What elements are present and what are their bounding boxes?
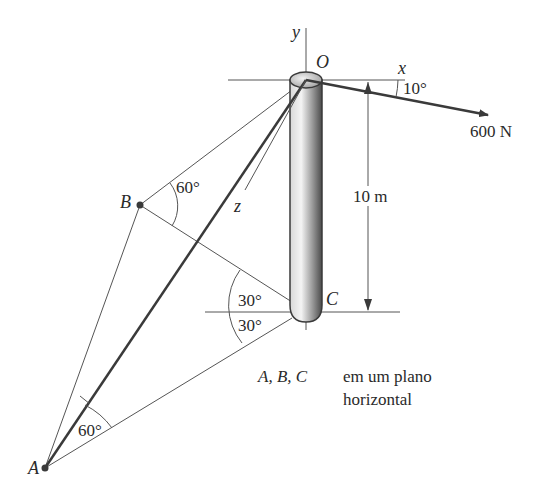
note-points: A, B, C — [257, 367, 308, 386]
tick-mark-A — [80, 396, 90, 404]
note-line-1: em um plano — [343, 367, 432, 386]
label-force-angle: 10° — [403, 79, 427, 98]
label-x-axis: x — [397, 58, 406, 78]
force-arrow — [306, 80, 488, 115]
label-angle-C-lower: 30° — [238, 316, 262, 335]
statics-diagram: y O x 10° 600 N 10 m z B 60° 30° 30° C A… — [0, 0, 549, 499]
note-line-2: horizontal — [343, 390, 412, 409]
point-B — [137, 202, 144, 209]
label-angle-C-upper: 30° — [238, 291, 262, 310]
label-A: A — [27, 458, 40, 478]
label-O: O — [316, 52, 329, 72]
label-B: B — [120, 192, 131, 212]
dimension-arrow-down — [364, 299, 372, 311]
pole — [290, 80, 322, 322]
label-height: 10 m — [353, 187, 387, 206]
label-C: C — [326, 289, 339, 309]
label-y-axis: y — [290, 22, 300, 42]
cable-A-to-O — [45, 80, 306, 468]
line-B-to-O — [140, 84, 300, 205]
line-A-to-C — [45, 318, 292, 468]
label-z-axis: z — [233, 196, 241, 216]
dimension-arrow-up — [364, 82, 372, 94]
label-angle-B: 60° — [176, 178, 200, 197]
line-B-to-C — [140, 205, 292, 302]
label-force-magnitude: 600 N — [470, 122, 512, 141]
point-A — [42, 465, 49, 472]
label-angle-A: 60° — [78, 421, 102, 440]
force-angle-arc — [396, 80, 398, 97]
